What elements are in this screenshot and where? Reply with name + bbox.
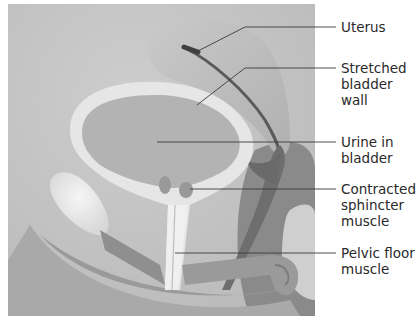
sphincter-left	[159, 176, 171, 194]
label-urine-in-bladder: Urine in bladder	[341, 134, 394, 166]
bladder-diagram: Uterus Stretched bladder wall Urine in b…	[0, 0, 418, 325]
sphincter-right	[179, 182, 193, 198]
label-uterus: Uterus	[341, 19, 386, 35]
label-stretched-bladder-wall: Stretched bladder wall	[341, 60, 407, 108]
label-pelvic-floor-muscle: Pelvic floor muscle	[341, 245, 415, 277]
label-contracted-sphincter-muscle: Contracted sphincter muscle	[341, 181, 416, 229]
